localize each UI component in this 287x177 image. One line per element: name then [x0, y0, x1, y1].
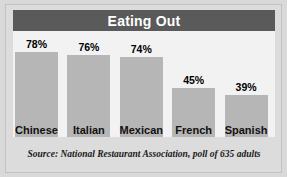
- bar-value-label: 45%: [172, 75, 215, 86]
- category-label-italian: Italian: [63, 122, 114, 139]
- bar-value-label: 74%: [120, 44, 163, 55]
- chart-figure: Eating Out 78%76%74%45%39% ChineseItalia…: [0, 0, 287, 177]
- chart-source-band: Source: National Restaurant Association,…: [13, 142, 275, 168]
- category-label-mexican: Mexican: [116, 122, 167, 139]
- chart-title: Eating Out: [108, 14, 181, 28]
- bar-value-label: 39%: [225, 82, 268, 93]
- bar-value-label: 76%: [67, 42, 110, 53]
- chart-title-bar: Eating Out: [13, 10, 275, 31]
- bar-value-label: 78%: [15, 39, 58, 50]
- category-label-french: French: [168, 122, 219, 139]
- category-label-spanish: Spanish: [221, 122, 272, 139]
- category-label-chinese: Chinese: [11, 122, 62, 139]
- chart-category-axis: ChineseItalianMexicanFrenchSpanish: [13, 122, 287, 139]
- chart-source-note: Source: National Restaurant Association,…: [28, 150, 261, 160]
